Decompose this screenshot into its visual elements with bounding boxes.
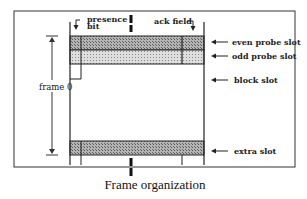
presence-bit-label-line2: bit bbox=[87, 21, 100, 31]
frame-dim-arrowhead-down-icon bbox=[49, 149, 55, 154]
odd-probe-slot-label: odd probe slot bbox=[232, 51, 297, 61]
even-probe-slot-label: even probe slot bbox=[232, 37, 301, 47]
left-arrow-icon bbox=[211, 54, 216, 59]
odd-probe-slot bbox=[70, 50, 204, 64]
left-arrow-icon bbox=[211, 78, 216, 83]
ack-field-arrow-icon bbox=[191, 26, 196, 31]
presence-bit-arrow-icon bbox=[74, 25, 79, 30]
odd-probe-slot-callout: odd probe slot bbox=[211, 51, 297, 61]
left-arrow-icon bbox=[211, 149, 216, 154]
extra-slot-label: extra slot bbox=[234, 146, 277, 156]
even-probe-slot bbox=[70, 36, 204, 50]
frame-0-label: frame 0 bbox=[39, 82, 72, 92]
left-arrow-icon bbox=[211, 40, 216, 45]
extra-slot-callout: extra slot bbox=[211, 146, 277, 156]
block-slot-label: block slot bbox=[234, 75, 278, 85]
figure-caption: Frame organization bbox=[104, 177, 206, 192]
ack-field-label: ack field bbox=[154, 16, 192, 26]
block-slot-callout: block slot bbox=[211, 75, 278, 85]
frame-organization-diagram: frame 0 presence bit ack field even prob… bbox=[0, 0, 307, 199]
even-probe-slot-callout: even probe slot bbox=[211, 37, 301, 47]
extra-slot bbox=[70, 141, 204, 155]
